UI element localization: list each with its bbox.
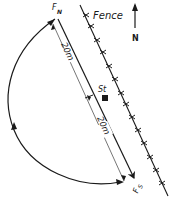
- svg-text:S: S: [136, 183, 144, 189]
- diagram-canvas: Fence N F N F S 20m 20m St: [0, 0, 181, 197]
- arc-start-arrowhead-icon: [116, 179, 124, 185]
- svg-text:N: N: [57, 8, 62, 15]
- fence-line: [80, 5, 168, 196]
- north-arrow-icon: [132, 3, 138, 28]
- fs-label: F S: [131, 183, 144, 194]
- fence-cross-icons: [83, 13, 165, 185]
- north-label: N: [132, 34, 139, 43]
- arc-end-arrowhead-icon: [47, 19, 55, 26]
- st-label: St: [98, 85, 107, 94]
- st-square-marker: [102, 95, 108, 101]
- fn-label: F N: [52, 3, 62, 15]
- fence-label: Fence: [93, 10, 123, 21]
